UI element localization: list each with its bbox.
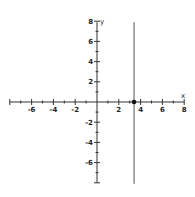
x-tick-label: -4 <box>50 106 58 114</box>
y-tick-label: 8 <box>88 18 93 26</box>
x-tick-label: 6 <box>160 106 165 114</box>
y-tick-label: -2 <box>85 119 93 127</box>
y-tick-label: -4 <box>85 139 93 147</box>
y-tick-label: 6 <box>88 38 93 46</box>
x-tick-label: 2 <box>116 106 121 114</box>
x-tick-label: -2 <box>71 106 79 114</box>
y-axis-label: y <box>100 18 104 26</box>
x-tick-label: -6 <box>28 106 36 114</box>
y-tick-label: 2 <box>88 78 93 86</box>
x-intercept-point <box>132 100 137 105</box>
y-tick-label: 4 <box>88 58 93 66</box>
tick-labels: -6-4-224688642-2-4-6 <box>28 18 187 167</box>
points-layer <box>132 100 137 105</box>
y-tick-label: -6 <box>85 159 93 167</box>
x-tick-label: 8 <box>182 106 187 114</box>
coordinate-plane: -6-4-224688642-2-4-6 x y <box>0 0 195 197</box>
x-tick-label: 4 <box>138 106 143 114</box>
x-axis-label: x <box>181 92 185 100</box>
